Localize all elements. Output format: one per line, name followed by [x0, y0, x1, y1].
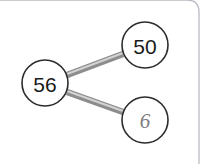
connector-to-bottom-icon	[67, 91, 123, 111]
whole-value: 56	[33, 73, 56, 96]
connector-group	[67, 53, 123, 112]
part-bottom-node[interactable]: 6	[122, 97, 168, 143]
connector-to-top-icon	[67, 53, 123, 74]
whole-node[interactable]: 56	[22, 60, 68, 106]
number-bond-worksheet-card: 56 50 6	[0, 0, 207, 164]
number-bond-diagram: 56 50 6	[0, 0, 207, 164]
part-bottom-value: 6	[140, 109, 151, 133]
part-top-node[interactable]: 50	[122, 22, 168, 68]
part-top-value: 50	[133, 35, 156, 58]
